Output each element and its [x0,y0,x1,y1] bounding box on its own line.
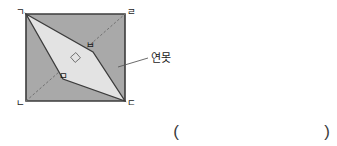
vertex-label-b: ㅂ [86,39,95,50]
vertex-label-bottom-right: ㄷ [127,97,136,108]
pond-label: 연못 [151,52,171,64]
vertex-label-m: ㅁ [59,70,68,81]
answer-paren-open: ( [173,122,179,141]
vertex-label-bottom-left: ㄴ [16,97,25,108]
vertex-label-top-right: ㄹ [127,6,136,17]
diagram-canvas: ㄱ ㄹ ㄷ ㄴ ㅂ ㅁ 연못 ( ) [0,0,337,146]
vertex-label-top-left: ㄱ [16,6,25,17]
answer-paren-close: ) [324,122,330,141]
geometry-figure: ㄱ ㄹ ㄷ ㄴ ㅂ ㅁ 연못 ( ) [0,0,337,146]
